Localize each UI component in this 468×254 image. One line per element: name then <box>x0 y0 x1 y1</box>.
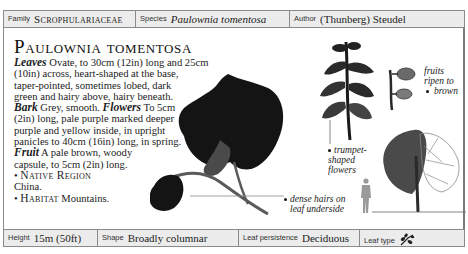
leaf-type-label: Leaf type <box>364 236 395 245</box>
leaf-persistence-cell: Leaf persistence Deciduous <box>239 230 360 246</box>
header-bar: Family Scrophulariaceae Species Paulowni… <box>3 10 465 28</box>
leaf-persistence-value: Deciduous <box>302 232 349 244</box>
footer-bar: Height 15m (50ft) Shape Broadly columnar… <box>3 229 465 247</box>
height-label: Height <box>8 233 30 242</box>
native-region-key: Native Region <box>20 169 91 181</box>
fruit-text-1: A pale brown, woody <box>39 147 132 158</box>
annotation-trumpet: trumpet- shaped flowers <box>328 145 367 175</box>
annotation-fruits-line-1: fruits <box>424 66 460 76</box>
habitat-key: Habitat <box>20 192 58 204</box>
annotation-hairs-line-2: leaf underside <box>284 204 345 214</box>
height-cell: Height 15m (50ft) <box>4 230 98 246</box>
shape-label: Shape <box>102 233 124 242</box>
annotation-fruits-line-3: brown <box>434 86 458 96</box>
annotation-fruits: fruits ripen to brown <box>424 66 460 96</box>
habitat-value: Mountains. <box>59 193 110 204</box>
family-label: Family <box>8 14 30 23</box>
shape-value: Broadly columnar <box>128 232 208 244</box>
leaves-key: Leaves <box>14 56 47 68</box>
annotation-hairs: dense hairs on leaf underside <box>284 194 345 214</box>
author-cell: Author (Thunberg) Steudel <box>290 11 464 27</box>
bark-key: Bark <box>14 101 38 113</box>
leaf-persistence-label: Leaf persistence <box>243 233 298 242</box>
bark-text: Grey, smooth. <box>38 102 103 113</box>
family-cell: Family Scrophulariaceae <box>4 11 136 27</box>
annotation-trumpet-line-1: trumpet- <box>334 145 367 155</box>
fruit-key: Fruit <box>14 146 39 158</box>
human-scale-icon <box>360 178 372 214</box>
shape-cell: Shape Broadly columnar <box>98 230 239 246</box>
annotation-hairs-line-1: dense hairs on <box>290 194 345 204</box>
pointer-dot-icon <box>426 90 429 93</box>
leaves-text-1: Ovate, to 30cm (12in) long and 25cm <box>47 57 209 68</box>
tree-illustration <box>372 126 466 216</box>
annotation-fruits-line-2: ripen to <box>424 76 460 86</box>
annotation-trumpet-line-3: flowers <box>328 165 367 175</box>
pointer-dot-icon <box>284 198 287 201</box>
species-value: Paulownia tomentosa <box>171 13 267 25</box>
species-cell: Species Paulownia tomentosa <box>136 11 290 27</box>
leaf-illustration <box>150 70 300 220</box>
fruit-illustration <box>384 60 418 112</box>
family-value: Scrophulariaceae <box>34 13 123 25</box>
page-title: Paulownia tomentosa <box>14 36 192 58</box>
flower-illustration <box>318 40 376 144</box>
annotation-trumpet-line-2: shaped <box>328 155 367 165</box>
flowers-key: Flowers <box>103 101 141 113</box>
compound-leaf-icon <box>399 233 415 246</box>
height-value: 15m (50ft) <box>34 232 81 244</box>
author-value: (Thunberg) Steudel <box>320 13 406 25</box>
author-label: Author <box>294 14 316 23</box>
species-label: Species <box>140 14 167 23</box>
leaf-type-cell: Leaf type <box>360 230 464 246</box>
pointer-dot-icon <box>328 149 331 152</box>
